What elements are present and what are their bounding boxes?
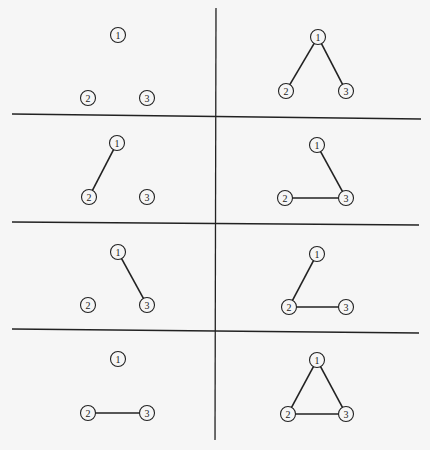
node-label: 3	[344, 409, 349, 420]
node-label: 3	[145, 300, 150, 311]
node-1: 1	[110, 136, 125, 151]
node-label: 2	[286, 409, 291, 420]
node-3: 3	[339, 407, 354, 422]
node-1: 1	[111, 28, 126, 43]
node-3: 3	[339, 300, 354, 315]
node-1: 1	[310, 138, 325, 153]
panel-4: 123	[278, 138, 354, 206]
node-label: 2	[86, 300, 91, 311]
panel-7: 123	[81, 352, 155, 421]
node-2: 2	[81, 298, 96, 313]
horizontal-divider-1	[12, 114, 421, 119]
panel-6: 123	[282, 247, 354, 315]
node-label: 2	[87, 192, 92, 203]
node-label: 1	[116, 247, 121, 258]
node-2: 2	[81, 91, 96, 106]
node-label: 1	[316, 32, 321, 43]
graph-grid-diagram: 123123123123123123123123	[0, 0, 430, 450]
panel-2: 123	[279, 30, 354, 99]
edge-1-2	[292, 367, 314, 408]
edge-1-2	[293, 261, 314, 301]
node-2: 2	[279, 84, 294, 99]
node-label: 3	[145, 192, 150, 203]
node-label: 2	[284, 86, 289, 97]
edge-1-2	[290, 43, 314, 84]
node-3: 3	[140, 190, 155, 205]
edge-1-3	[321, 44, 342, 85]
node-label: 1	[116, 354, 121, 365]
node-1: 1	[310, 247, 325, 262]
node-label: 2	[283, 193, 288, 204]
node-label: 2	[86, 93, 91, 104]
node-3: 3	[140, 298, 155, 313]
node-label: 3	[145, 93, 150, 104]
node-2: 2	[282, 300, 297, 315]
edge-1-3	[122, 259, 144, 299]
node-label: 3	[344, 193, 349, 204]
node-2: 2	[82, 190, 97, 205]
node-label: 1	[116, 30, 121, 41]
node-label: 1	[315, 249, 320, 260]
edge-1-3	[321, 367, 343, 408]
panel-1: 123	[81, 28, 155, 106]
panel-8: 123	[281, 353, 354, 422]
node-label: 3	[344, 302, 349, 313]
node-label: 2	[86, 408, 91, 419]
edge-1-2	[92, 150, 113, 191]
panel-5: 123	[81, 245, 155, 313]
node-label: 1	[315, 355, 320, 366]
node-1: 1	[311, 30, 326, 45]
node-2: 2	[281, 407, 296, 422]
node-label: 3	[344, 86, 349, 97]
node-label: 3	[145, 408, 150, 419]
edge-1-3	[321, 152, 343, 192]
node-3: 3	[140, 91, 155, 106]
node-1: 1	[111, 352, 126, 367]
node-3: 3	[339, 191, 354, 206]
panel-3: 123	[82, 136, 155, 205]
node-2: 2	[278, 191, 293, 206]
node-label: 1	[315, 140, 320, 151]
grid-dividers	[12, 8, 421, 440]
node-1: 1	[310, 353, 325, 368]
node-label: 1	[115, 138, 120, 149]
node-3: 3	[140, 406, 155, 421]
node-1: 1	[111, 245, 126, 260]
node-3: 3	[339, 84, 354, 99]
node-2: 2	[81, 406, 96, 421]
node-label: 2	[287, 302, 292, 313]
